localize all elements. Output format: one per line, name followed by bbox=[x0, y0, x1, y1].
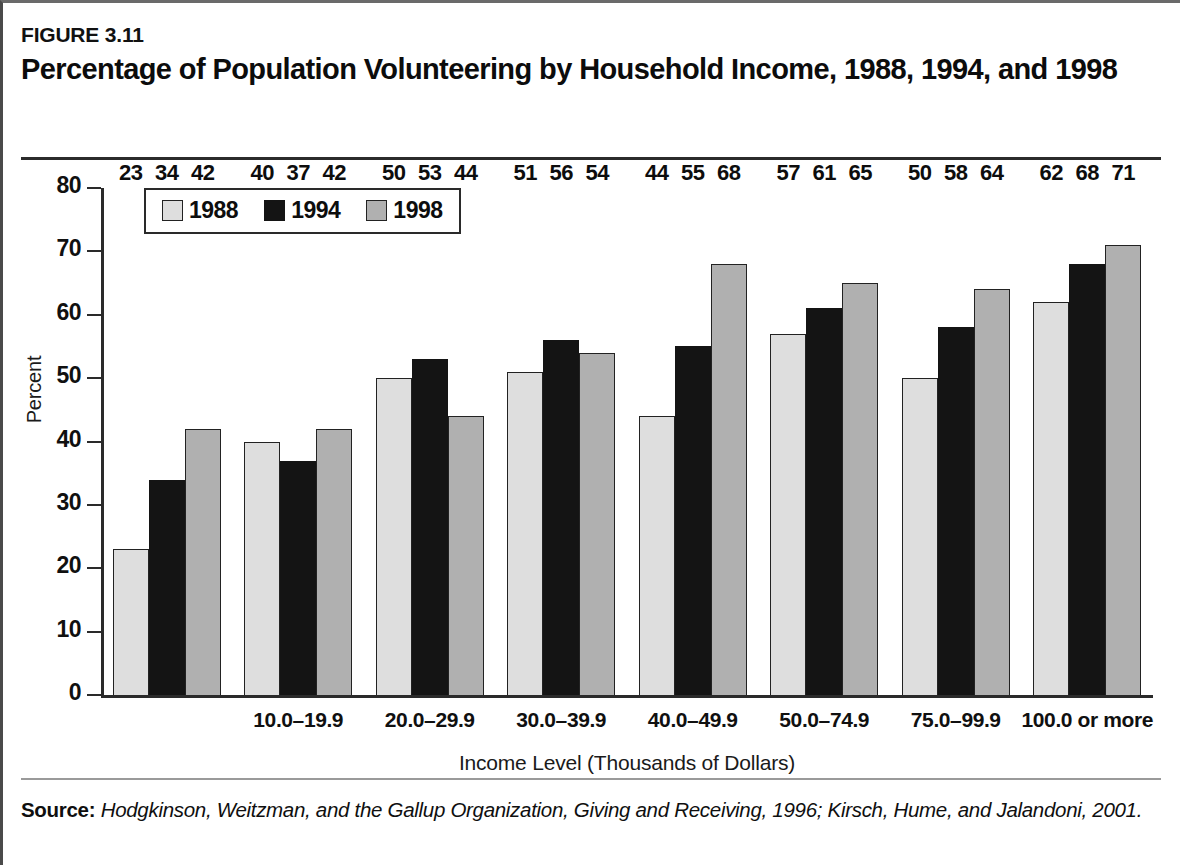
bar[interactable] bbox=[579, 353, 615, 695]
bar-column[interactable]: 71 bbox=[1105, 188, 1141, 695]
bar[interactable] bbox=[316, 429, 352, 695]
bar-value-label: 71 bbox=[1112, 160, 1135, 186]
bar-column[interactable]: 54 bbox=[579, 188, 615, 695]
y-axis-tick-label: 70 bbox=[29, 235, 81, 262]
bar-group: 403742 bbox=[233, 188, 365, 695]
bar-column[interactable]: 56 bbox=[543, 188, 579, 695]
bar[interactable] bbox=[113, 549, 149, 695]
bar[interactable] bbox=[185, 429, 221, 695]
bar-group: 505344 bbox=[364, 188, 496, 695]
bar[interactable] bbox=[543, 340, 579, 695]
bar-column[interactable]: 58 bbox=[938, 188, 974, 695]
bar-column[interactable]: 68 bbox=[1069, 188, 1105, 695]
source-text: Hodgkinson, Weitzman, and the Gallup Org… bbox=[101, 798, 1142, 821]
y-axis-tick bbox=[87, 187, 101, 189]
bar[interactable] bbox=[711, 264, 747, 695]
bar-value-label: 68 bbox=[1076, 160, 1099, 186]
bar[interactable] bbox=[376, 378, 412, 695]
y-axis-tick-label: 20 bbox=[29, 552, 81, 579]
bar-value-label: 50 bbox=[908, 160, 931, 186]
bar-value-label: 50 bbox=[382, 160, 405, 186]
bar-column[interactable]: 51 bbox=[507, 188, 543, 695]
bar-column[interactable]: 57 bbox=[770, 188, 806, 695]
y-axis-tick-label: 0 bbox=[29, 679, 81, 706]
bar-column[interactable]: 40 bbox=[244, 188, 280, 695]
bar-value-label: 42 bbox=[191, 160, 214, 186]
bar-column[interactable]: 42 bbox=[185, 188, 221, 695]
bar-column[interactable]: 53 bbox=[412, 188, 448, 695]
bar[interactable] bbox=[244, 442, 280, 696]
y-axis-tick bbox=[87, 314, 101, 316]
bar-column[interactable]: 62 bbox=[1033, 188, 1069, 695]
bar-value-label: 40 bbox=[251, 160, 274, 186]
bar-column[interactable]: 65 bbox=[842, 188, 878, 695]
bar[interactable] bbox=[902, 378, 938, 695]
bar-column[interactable]: 50 bbox=[902, 188, 938, 695]
bar-column[interactable]: 61 bbox=[806, 188, 842, 695]
legend-item[interactable]: 1998 bbox=[366, 197, 442, 224]
x-axis-title: Income Level (Thousands of Dollars) bbox=[101, 751, 1153, 775]
bar-value-label: 34 bbox=[155, 160, 178, 186]
bar-group: 233442 bbox=[101, 188, 233, 695]
bar[interactable] bbox=[149, 480, 185, 695]
y-axis-tick bbox=[87, 504, 101, 506]
bar-column[interactable]: 68 bbox=[711, 188, 747, 695]
bar[interactable] bbox=[770, 334, 806, 695]
legend-label: 1998 bbox=[393, 197, 442, 224]
y-axis-tick-label: 30 bbox=[29, 489, 81, 516]
bar-group: 576165 bbox=[759, 188, 891, 695]
bar-column[interactable]: 55 bbox=[675, 188, 711, 695]
source-divider bbox=[21, 778, 1161, 780]
legend-item[interactable]: 1988 bbox=[162, 197, 238, 224]
y-axis-tick bbox=[87, 631, 101, 633]
bar-column[interactable]: 34 bbox=[149, 188, 185, 695]
bar[interactable] bbox=[842, 283, 878, 695]
legend-swatch-icon bbox=[162, 200, 183, 221]
figure-container: FIGURE 3.11 Percentage of Population Vol… bbox=[0, 0, 1180, 865]
bar-value-label: 51 bbox=[514, 160, 537, 186]
bar[interactable] bbox=[412, 359, 448, 695]
bar-column[interactable]: 44 bbox=[639, 188, 675, 695]
bar-column[interactable]: 50 bbox=[376, 188, 412, 695]
bar[interactable] bbox=[1069, 264, 1105, 695]
x-axis-line bbox=[101, 695, 1153, 698]
bar[interactable] bbox=[280, 461, 316, 695]
legend-item[interactable]: 1994 bbox=[264, 197, 340, 224]
bar-column[interactable]: 23 bbox=[113, 188, 149, 695]
y-axis-tick-label: 60 bbox=[29, 299, 81, 326]
y-axis-tick-label: 80 bbox=[29, 172, 81, 199]
bar-group: 515654 bbox=[496, 188, 628, 695]
bar[interactable] bbox=[938, 327, 974, 695]
bar[interactable] bbox=[639, 416, 675, 695]
y-axis-tick bbox=[87, 567, 101, 569]
bar-value-label: 61 bbox=[813, 160, 836, 186]
bar[interactable] bbox=[1105, 245, 1141, 695]
bar-value-label: 57 bbox=[777, 160, 800, 186]
bar-column[interactable]: 64 bbox=[974, 188, 1010, 695]
bar-value-label: 44 bbox=[454, 160, 477, 186]
bar[interactable] bbox=[1033, 302, 1069, 695]
bar[interactable] bbox=[507, 372, 543, 695]
bar-column[interactable]: 42 bbox=[316, 188, 352, 695]
bar-column[interactable]: 44 bbox=[448, 188, 484, 695]
y-axis-tick bbox=[87, 694, 101, 696]
bar[interactable] bbox=[974, 289, 1010, 695]
bar-value-label: 42 bbox=[323, 160, 346, 186]
bar-value-label: 64 bbox=[980, 160, 1003, 186]
bar-group: 626871 bbox=[1022, 188, 1154, 695]
legend-swatch-icon bbox=[264, 200, 285, 221]
bar-value-label: 68 bbox=[717, 160, 740, 186]
bar-column[interactable]: 37 bbox=[280, 188, 316, 695]
bar-group: 505864 bbox=[890, 188, 1022, 695]
legend-label: 1994 bbox=[291, 197, 340, 224]
figure-number: FIGURE 3.11 bbox=[21, 23, 1161, 47]
legend-swatch-icon bbox=[366, 200, 387, 221]
bar[interactable] bbox=[675, 346, 711, 695]
bar[interactable] bbox=[806, 308, 842, 695]
y-axis-tick-label: 50 bbox=[29, 362, 81, 389]
y-axis-tick bbox=[87, 377, 101, 379]
bar-value-label: 37 bbox=[287, 160, 310, 186]
bar-chart: Percent 01020304050607080 23344240374250… bbox=[3, 163, 1180, 775]
bar-value-label: 65 bbox=[849, 160, 872, 186]
bar[interactable] bbox=[448, 416, 484, 695]
